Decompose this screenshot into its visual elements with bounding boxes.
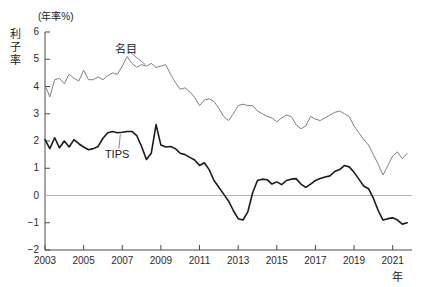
y-tick-label: 3 — [21, 108, 39, 119]
x-tick-label: 2007 — [106, 255, 138, 266]
chart-figure: (年率%) 利 子 率 年 6543210−1−2200320052007200… — [0, 0, 422, 287]
y-tick-label: −2 — [21, 244, 39, 255]
y-tick-label: 1 — [21, 162, 39, 173]
x-tick-label: 2011 — [184, 255, 216, 266]
y-axis-title-char-3: 率 — [8, 54, 22, 67]
x-axis-title: 年 — [392, 268, 403, 284]
x-tick-label: 2003 — [29, 255, 61, 266]
x-tick-label: 2015 — [261, 255, 293, 266]
x-tick-label: 2017 — [299, 255, 331, 266]
x-tick-label: 2021 — [377, 255, 409, 266]
series-line-tips — [45, 125, 407, 224]
y-axis-title-char-1: 利 — [8, 28, 22, 41]
x-tick-label: 2005 — [68, 255, 100, 266]
y-axis-title: 利 子 率 — [8, 28, 22, 67]
y-tick-label: −1 — [21, 217, 39, 228]
plot-area — [0, 0, 422, 287]
y-tick-label: 0 — [21, 190, 39, 201]
series-label-tips: TIPS — [105, 148, 129, 160]
series-label-nominal: 名目 — [115, 40, 137, 56]
y-tick-label: 2 — [21, 135, 39, 146]
x-tick-label: 2013 — [222, 255, 254, 266]
y-tick-label: 5 — [21, 53, 39, 64]
y-tick-label: 6 — [21, 26, 39, 37]
y-tick-label: 4 — [21, 81, 39, 92]
x-tick-label: 2019 — [338, 255, 370, 266]
series-leader-line — [119, 134, 120, 148]
axis-unit-note: (年率%) — [38, 8, 74, 23]
series-line-nominal — [45, 57, 407, 176]
x-tick-label: 2009 — [145, 255, 177, 266]
y-axis-title-char-2: 子 — [8, 41, 22, 54]
